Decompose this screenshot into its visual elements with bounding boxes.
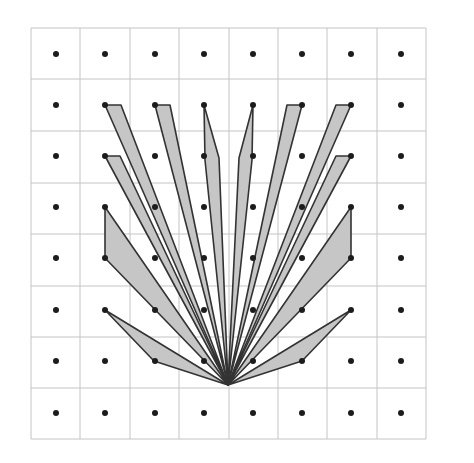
lattice-dot [102, 410, 108, 416]
lattice-dot [250, 307, 256, 313]
lattice-dot [398, 204, 404, 210]
lattice-dot [348, 102, 354, 108]
lattice-dot [398, 153, 404, 159]
lattice-dot [201, 307, 207, 313]
lattice-dot [250, 51, 256, 57]
lattice-dot [348, 51, 354, 57]
lattice-dot [102, 153, 108, 159]
lattice-dot [53, 102, 59, 108]
lattice-dot [102, 51, 108, 57]
lattice-dot [299, 102, 305, 108]
lattice-dot [201, 358, 207, 364]
lattice-dot [398, 307, 404, 313]
fan-blades [105, 105, 351, 385]
lattice-dot [201, 410, 207, 416]
lattice-dot [348, 153, 354, 159]
lattice-dot [250, 204, 256, 210]
lattice-dot [53, 307, 59, 313]
lattice-dot [53, 51, 59, 57]
lattice-dot [102, 204, 108, 210]
lattice-dot [152, 358, 158, 364]
lattice-dot [102, 307, 108, 313]
lattice-dot [201, 153, 207, 159]
lattice-dot [102, 102, 108, 108]
lattice-dot [53, 410, 59, 416]
lattice-dot [152, 410, 158, 416]
lattice-dot [250, 102, 256, 108]
lattice-dot [299, 307, 305, 313]
lattice-dot [398, 410, 404, 416]
lattice-dot [152, 51, 158, 57]
lattice-dot [152, 204, 158, 210]
lattice-dot [201, 51, 207, 57]
lattice-dot [299, 153, 305, 159]
lattice-dot [201, 204, 207, 210]
lattice-dot [299, 358, 305, 364]
lattice-dot [299, 51, 305, 57]
lattice-dot [348, 255, 354, 261]
lattice-dot [201, 102, 207, 108]
lattice-dot [201, 255, 207, 261]
lattice-dot [348, 410, 354, 416]
lattice-dot [53, 153, 59, 159]
lattice-dot [152, 255, 158, 261]
lattice-dot [398, 102, 404, 108]
lattice-dot [250, 410, 256, 416]
lattice-dot [53, 255, 59, 261]
lattice-dot [152, 102, 158, 108]
lattice-dot [102, 358, 108, 364]
lattice-dot [53, 358, 59, 364]
lattice-fan-diagram [0, 0, 474, 463]
lattice-dot [299, 410, 305, 416]
lattice-dot [348, 204, 354, 210]
lattice-dot [299, 255, 305, 261]
lattice-dot [102, 255, 108, 261]
lattice-dot [152, 153, 158, 159]
lattice-dot [299, 204, 305, 210]
lattice-dot [398, 255, 404, 261]
lattice-dot [152, 307, 158, 313]
lattice-dot [348, 358, 354, 364]
lattice-dot [398, 358, 404, 364]
lattice-dot [398, 51, 404, 57]
lattice-dot [53, 204, 59, 210]
lattice-dot [250, 153, 256, 159]
lattice-dot [250, 255, 256, 261]
lattice-dot [348, 307, 354, 313]
lattice-dot [250, 358, 256, 364]
